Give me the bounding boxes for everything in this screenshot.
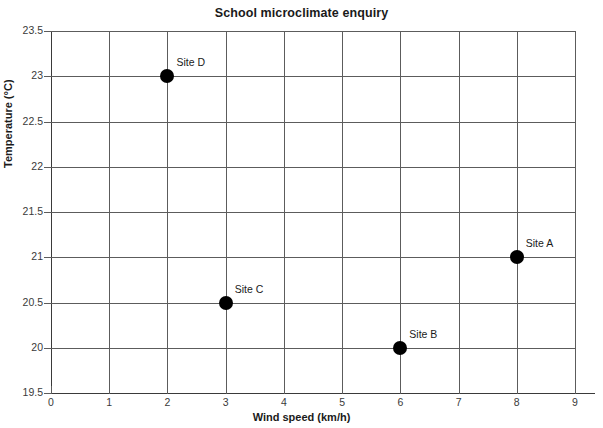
data-point <box>510 250 524 264</box>
plot-area <box>51 31 575 393</box>
x-tick-mark <box>459 386 460 394</box>
x-tick-mark <box>517 386 518 394</box>
data-point <box>219 296 233 310</box>
data-point-label: Site A <box>526 237 553 249</box>
x-tick-label: 0 <box>48 396 54 408</box>
x-tick-label: 1 <box>106 396 112 408</box>
gridline-vertical <box>226 31 227 393</box>
x-tick-label: 6 <box>397 396 403 408</box>
y-tick-label: 22.5 <box>10 115 43 127</box>
y-tick-mark <box>44 31 52 32</box>
y-tick-label: 21.5 <box>10 205 43 217</box>
gridline-vertical <box>400 31 401 393</box>
y-tick-mark <box>44 303 52 304</box>
x-tick-mark <box>575 386 576 394</box>
y-tick-mark <box>44 348 52 349</box>
chart-title: School microclimate enquiry <box>0 6 603 20</box>
gridline-horizontal <box>51 122 575 123</box>
y-tick-label: 20.5 <box>10 296 43 308</box>
gridline-vertical <box>284 31 285 393</box>
y-axis-title-text: Temperature (°C) <box>2 150 14 168</box>
y-tick-mark <box>44 122 52 123</box>
gridline-vertical <box>517 31 518 393</box>
gridline-horizontal <box>51 76 575 77</box>
x-tick-mark <box>167 386 168 394</box>
gridline-horizontal <box>51 303 575 304</box>
scatter-chart: School microclimate enquiry 19.52020.521… <box>0 0 603 428</box>
data-point <box>393 341 407 355</box>
x-tick-mark <box>342 386 343 394</box>
y-tick-label: 19.5 <box>10 386 43 398</box>
gridline-vertical <box>459 31 460 393</box>
y-axis-title: Temperature (°C) <box>2 150 14 168</box>
y-tick-mark <box>44 257 52 258</box>
gridline-vertical <box>575 31 576 393</box>
gridline-vertical <box>342 31 343 393</box>
gridline-horizontal <box>51 31 575 32</box>
y-tick-mark <box>44 76 52 77</box>
x-tick-label: 8 <box>514 396 520 408</box>
x-tick-label: 4 <box>281 396 287 408</box>
x-tick-label: 7 <box>456 396 462 408</box>
x-tick-mark <box>109 386 110 394</box>
gridline-horizontal <box>51 348 575 349</box>
x-tick-mark <box>400 386 401 394</box>
x-tick-label: 2 <box>165 396 171 408</box>
data-point-label: Site D <box>176 56 205 68</box>
y-tick-label: 20 <box>10 341 43 353</box>
gridline-vertical <box>167 31 168 393</box>
x-axis-title: Wind speed (km/h) <box>0 411 603 423</box>
data-point-label: Site B <box>409 328 437 340</box>
gridline-horizontal <box>51 212 575 213</box>
y-tick-label: 21 <box>10 250 43 262</box>
x-tick-label: 3 <box>223 396 229 408</box>
data-point-label: Site C <box>235 283 264 295</box>
x-tick-label: 9 <box>572 396 578 408</box>
gridline-vertical <box>109 31 110 393</box>
y-tick-mark <box>44 167 52 168</box>
x-axis-line <box>51 393 595 394</box>
y-tick-label: 23 <box>10 69 43 81</box>
x-tick-mark <box>226 386 227 394</box>
y-tick-mark <box>44 212 52 213</box>
x-tick-mark <box>284 386 285 394</box>
y-tick-label: 22 <box>10 160 43 172</box>
x-tick-mark <box>51 386 52 394</box>
gridline-horizontal <box>51 257 575 258</box>
x-tick-label: 5 <box>339 396 345 408</box>
y-tick-label: 23.5 <box>10 24 43 36</box>
gridline-horizontal <box>51 167 575 168</box>
